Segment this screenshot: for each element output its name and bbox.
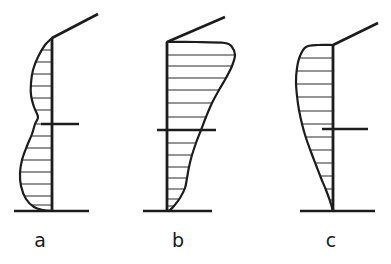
figure-canvas: abc [0, 0, 391, 264]
upper-beam-c [333, 23, 378, 45]
upper-beam-a [52, 14, 98, 38]
upper-beam-b [167, 17, 225, 42]
panel-label-a: a [34, 229, 46, 251]
panel-b [143, 17, 235, 211]
panel-label-b: b [172, 229, 184, 251]
hatching-a [20, 50, 52, 205]
envelope-curve-b [167, 42, 235, 211]
panels-group [14, 14, 378, 211]
diagram-svg: abc [0, 0, 391, 264]
panel-label-c: c [326, 229, 336, 251]
panel-labels-group: abc [34, 229, 336, 251]
panel-c [296, 23, 378, 211]
panel-a [14, 14, 98, 211]
